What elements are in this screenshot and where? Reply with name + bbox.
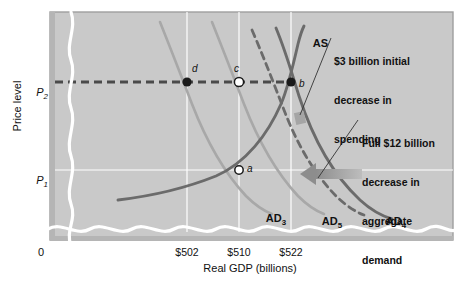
y-axis-spine bbox=[50, 12, 55, 240]
origin-label: 0 bbox=[38, 246, 44, 258]
point-label-c: c bbox=[234, 63, 239, 74]
y-axis-title: Price level bbox=[11, 61, 23, 151]
x-tick-label-522: $522 bbox=[261, 246, 321, 258]
data-point-b bbox=[286, 77, 295, 86]
annotation-line: decrease in bbox=[334, 94, 410, 107]
data-point-d bbox=[182, 77, 191, 86]
figure-canvas: Price level Real GDP (billions) 0 P2 P1 … bbox=[0, 0, 472, 285]
x-axis-title: Real GDP (billions) bbox=[140, 262, 360, 274]
annotation-line: Full $12 billion bbox=[362, 137, 435, 150]
curve-label-as: AS bbox=[301, 25, 328, 61]
y-tick-label-p2: P2 bbox=[24, 74, 48, 113]
data-point-c bbox=[234, 77, 243, 86]
annotation-full-decrease: Full $12 billion decrease in aggregate d… bbox=[362, 111, 435, 285]
y-tick-label-p1: P1 bbox=[24, 162, 48, 201]
point-label-d: d bbox=[192, 63, 198, 74]
x-tick-label-510: $510 bbox=[209, 246, 269, 258]
point-label-a: a bbox=[247, 163, 253, 174]
data-point-a bbox=[235, 166, 243, 174]
annotation-line: aggregate bbox=[362, 215, 435, 228]
point-label-b: b bbox=[299, 78, 305, 89]
annotation-line: $3 billion initial bbox=[334, 55, 410, 68]
annotation-line: decrease in bbox=[362, 176, 435, 189]
x-tick-label-502: $502 bbox=[157, 246, 217, 258]
curve-label-ad3: AD3 bbox=[254, 200, 286, 239]
curve-label-ad5: AD5 bbox=[310, 203, 342, 242]
annotation-line: demand bbox=[362, 254, 435, 267]
